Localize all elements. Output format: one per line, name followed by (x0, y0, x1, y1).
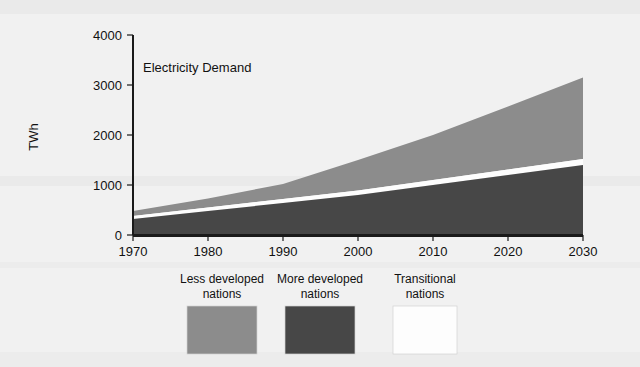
x-tick-label: 1970 (119, 244, 148, 259)
legend-item-less-developed-nations[interactable]: Less developed nations (180, 272, 264, 354)
x-tick-label: 2020 (494, 244, 523, 259)
x-tick-label: 1990 (269, 244, 298, 259)
legend-item-transitional-nations[interactable]: Transitional nations (393, 272, 457, 354)
plot-areas (133, 78, 583, 236)
y-axis-tick-labels: 4000 3000 2000 1000 0 (93, 28, 122, 243)
chart-legend: Less developed nations More developed na… (180, 272, 457, 354)
x-tick-label: 2010 (419, 244, 448, 259)
chart-title: Electricity Demand (143, 60, 251, 75)
chart-svg: 4000 3000 2000 1000 0 1970 1980 1990 200… (0, 0, 640, 367)
legend-swatch-more-developed-nations (285, 306, 355, 354)
y-axis-title: TWh (26, 123, 41, 150)
legend-label-line2: nations (203, 287, 242, 301)
legend-label-line2: nations (301, 287, 340, 301)
legend-label-line2: nations (406, 287, 445, 301)
y-tick-label: 2000 (93, 128, 122, 143)
y-tick-label: 0 (115, 228, 122, 243)
y-tick-label: 1000 (93, 178, 122, 193)
y-tick-label: 3000 (93, 78, 122, 93)
legend-label-line1: Transitional (394, 272, 456, 286)
x-tick-label: 1980 (194, 244, 223, 259)
x-tick-label: 2000 (344, 244, 373, 259)
legend-label-line1: More developed (277, 272, 363, 286)
legend-swatch-less-developed-nations (187, 306, 257, 354)
chart-figure: 4000 3000 2000 1000 0 1970 1980 1990 200… (0, 0, 640, 367)
x-axis-tick-labels: 1970 1980 1990 2000 2010 2020 2030 (119, 244, 598, 259)
legend-label-line1: Less developed (180, 272, 264, 286)
y-tick-label: 4000 (93, 28, 122, 43)
legend-swatch-transitional-nations (393, 306, 457, 354)
x-tick-label: 2030 (569, 244, 598, 259)
legend-item-more-developed-nations[interactable]: More developed nations (277, 272, 363, 354)
